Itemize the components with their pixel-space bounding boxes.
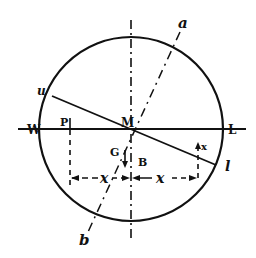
label-dim-left: x	[99, 170, 109, 186]
diagram-canvas: a b u l W L M P x G B x x	[0, 0, 256, 258]
label-B: B	[138, 156, 147, 169]
label-M: M	[121, 116, 134, 130]
label-a: a	[178, 14, 188, 32]
label-dim-right: x	[155, 170, 165, 186]
arrow-left-icon	[71, 175, 79, 181]
label-u: u	[37, 84, 46, 98]
label-l: l	[225, 158, 230, 174]
arrow-right-icon-2	[189, 175, 197, 181]
label-W: W	[26, 123, 41, 137]
label-b: b	[79, 231, 90, 249]
arrow-left-icon-2	[132, 175, 140, 181]
arrow-right-icon	[122, 175, 130, 181]
label-x-top: x	[201, 141, 208, 152]
dashdot-line-a-b	[88, 32, 180, 232]
arrow-down-icon	[122, 161, 128, 168]
label-P: P	[60, 116, 68, 129]
label-G: G	[110, 146, 119, 159]
label-L: L	[228, 123, 237, 137]
